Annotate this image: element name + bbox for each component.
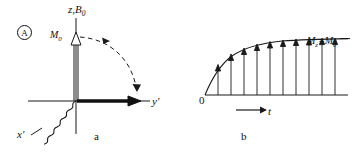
- panel-a-graphics: [28, 18, 150, 144]
- panel-marker-a: A: [17, 25, 32, 40]
- sample-arrow: [293, 39, 298, 95]
- sample-arrow: [241, 48, 246, 95]
- y-axis-label: y': [152, 96, 159, 107]
- z-axis-label-text: z,B: [68, 3, 82, 15]
- sample-arrow: [267, 42, 272, 96]
- x-axis-label: x': [17, 129, 24, 140]
- precession-arc: [80, 37, 137, 94]
- time-axis-label: t: [268, 106, 271, 117]
- panel-a-caption: a: [94, 131, 99, 142]
- x-axis-tail: [31, 128, 42, 135]
- panel-b-caption: b: [241, 131, 247, 142]
- sample-arrow: [215, 65, 220, 96]
- asymptote-label-eq: =M: [318, 35, 333, 46]
- sample-arrow: [228, 54, 233, 95]
- my-vector-arrowhead: [128, 96, 141, 106]
- x-axis-wavy-line: [45, 101, 76, 144]
- m0-vector-arrowhead: [71, 32, 81, 45]
- z-axis-label: z,B0: [68, 4, 85, 18]
- z-axis-label-sub: 0: [82, 9, 86, 18]
- origin-label: 0: [199, 95, 205, 106]
- arc-arrowhead-bottom: [133, 84, 142, 92]
- sample-arrow: [254, 44, 259, 95]
- figure-svg: [0, 0, 353, 158]
- asymptote-label: Mz=M0: [307, 36, 336, 49]
- m0-label: M0: [50, 30, 62, 43]
- panel-b-graphics: [205, 38, 350, 113]
- sample-arrow: [280, 40, 285, 95]
- m0-label-sub: 0: [58, 35, 61, 42]
- time-direction-arrowhead: [260, 107, 267, 114]
- figure-container: A z,B0 M0 y' x' a Mz=M0 0 t b: [0, 0, 353, 158]
- asymptote-label-zero: 0: [333, 41, 336, 48]
